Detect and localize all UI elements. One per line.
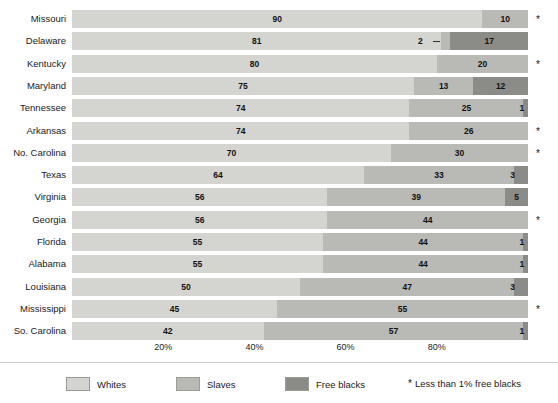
segment-slaves (323, 255, 524, 273)
chart-row: Alabama55441 (0, 253, 558, 275)
chart-row: Kentucky8020* (0, 53, 558, 75)
chart-row: Arkansas7426* (0, 120, 558, 142)
row-category-label: Tennessee (0, 97, 66, 119)
segment-slaves (437, 55, 528, 73)
segment-whites (72, 322, 264, 340)
segment-whites (72, 77, 414, 95)
chart-row: Tennessee74251 (0, 97, 558, 119)
x-axis-tick-label: 60% (337, 342, 355, 352)
bar-track: 9010 (72, 10, 528, 28)
segment-whites (72, 99, 409, 117)
asterisk-icon: * (536, 53, 540, 75)
bar-track: 7030 (72, 144, 528, 162)
bar-track: 7426 (72, 122, 528, 140)
legend-item-slaves: Slaves (176, 376, 236, 392)
stacked-bar-chart: Missouri9010*Delaware81217Kentucky8020*M… (0, 0, 558, 403)
legend-swatch-whites (66, 377, 90, 391)
legend-item-whites: Whites (66, 376, 126, 392)
asterisk-icon: * (536, 120, 540, 142)
segment-slaves (327, 211, 528, 229)
chart-row: So. Carolina42571 (0, 320, 558, 342)
legend-label-whites: Whites (97, 379, 126, 390)
segment-whites (72, 144, 391, 162)
segment-whites (72, 55, 437, 73)
segment-whites (72, 211, 327, 229)
segment-free-blacks (473, 77, 528, 95)
chart-row: Florida55441 (0, 231, 558, 253)
bar-track: 4555 (72, 300, 528, 318)
segment-free-blacks (514, 278, 528, 296)
row-category-label: No. Carolina (0, 142, 66, 164)
row-category-label: Virginia (0, 186, 66, 208)
row-category-label: Alabama (0, 253, 66, 275)
legend-item-free-blacks: Free blacks (285, 376, 365, 392)
bar-track: 56395 (72, 188, 528, 206)
segment-whites (72, 122, 409, 140)
segment-slaves (300, 278, 514, 296)
legend-footnote: *Less than 1% free blacks (408, 376, 521, 392)
segment-slaves (409, 99, 523, 117)
segment-free-blacks (523, 322, 528, 340)
legend-swatch-free-blacks (285, 377, 309, 391)
segment-slaves (277, 300, 528, 318)
asterisk-icon: * (536, 298, 540, 320)
segment-whites (72, 10, 482, 28)
asterisk-icon: * (536, 209, 540, 231)
bar-track: 5644 (72, 211, 528, 229)
bar-track: 751312 (72, 77, 528, 95)
bar-track: 50473 (72, 278, 528, 296)
chart-row: Missouri9010* (0, 8, 558, 30)
row-category-label: Louisiana (0, 276, 66, 298)
row-category-label: Georgia (0, 209, 66, 231)
x-axis: 20%40%60%80% (72, 340, 528, 360)
segment-slaves (327, 188, 505, 206)
chart-legend: Whites Slaves Free blacks *Less than 1% … (0, 362, 558, 403)
plot-area: Missouri9010*Delaware81217Kentucky8020*M… (0, 0, 558, 340)
segment-whites (72, 255, 323, 273)
asterisk-icon: * (536, 8, 540, 30)
bar-track: 55441 (72, 255, 528, 273)
segment-free-blacks (523, 99, 528, 117)
segment-free-blacks (450, 32, 528, 50)
row-category-label: So. Carolina (0, 320, 66, 342)
segment-whites (72, 300, 277, 318)
legend-label-free-blacks: Free blacks (316, 379, 365, 390)
bar-track: 8020 (72, 55, 528, 73)
segment-slaves (391, 144, 528, 162)
segment-whites (72, 166, 364, 184)
segment-whites (72, 32, 441, 50)
row-category-label: Texas (0, 164, 66, 186)
chart-row: Georgia5644* (0, 209, 558, 231)
row-category-label: Florida (0, 231, 66, 253)
row-category-label: Mississippi (0, 298, 66, 320)
segment-whites (72, 233, 323, 251)
segment-slaves (441, 32, 450, 50)
segment-whites (72, 188, 327, 206)
chart-row: No. Carolina7030* (0, 142, 558, 164)
row-category-label: Kentucky (0, 53, 66, 75)
segment-free-blacks (514, 166, 528, 184)
segment-slaves (264, 322, 524, 340)
row-category-label: Arkansas (0, 120, 66, 142)
row-category-label: Delaware (0, 30, 66, 52)
segment-free-blacks (505, 188, 528, 206)
segment-slaves (414, 77, 473, 95)
chart-row: Delaware81217 (0, 30, 558, 52)
bar-track: 81217 (72, 32, 528, 50)
segment-free-blacks (523, 233, 528, 251)
x-axis-tick-label: 80% (428, 342, 446, 352)
row-category-label: Missouri (0, 8, 66, 30)
legend-label-slaves: Slaves (207, 379, 236, 390)
legend-swatch-slaves (176, 377, 200, 391)
asterisk-icon: * (408, 378, 412, 389)
bar-track: 64333 (72, 166, 528, 184)
chart-row: Mississippi4555* (0, 298, 558, 320)
segment-slaves (482, 10, 528, 28)
segment-slaves (409, 122, 528, 140)
asterisk-icon: * (536, 142, 540, 164)
chart-row: Texas64333 (0, 164, 558, 186)
leader-line (433, 41, 440, 42)
legend-footnote-text: Less than 1% free blacks (415, 378, 521, 389)
row-category-label: Maryland (0, 75, 66, 97)
chart-row: Louisiana50473 (0, 276, 558, 298)
